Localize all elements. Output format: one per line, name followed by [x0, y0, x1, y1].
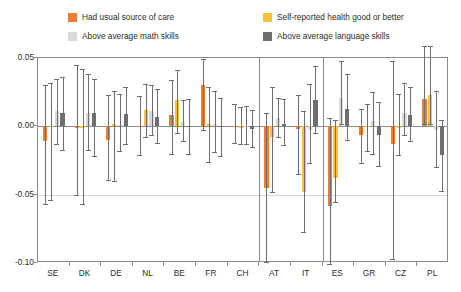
- legend-label: Self-reported health good or better: [277, 13, 404, 22]
- error-bar-cap: [390, 61, 395, 62]
- error-bar-cap: [359, 109, 364, 110]
- error-bar-cap: [376, 102, 381, 103]
- legend-item-usual_care: Had usual source of care: [68, 13, 174, 22]
- error-bar-cap: [175, 70, 180, 71]
- error-bar-cap: [117, 151, 122, 152]
- error-bar-BE-s2: [183, 100, 184, 141]
- x-axis-tick-label-ES: ES: [332, 268, 343, 278]
- x-axis-tick-label-FR: FR: [205, 268, 216, 278]
- grid-line: [38, 195, 447, 196]
- error-bar-CZ-s3: [410, 87, 411, 142]
- error-bar-cap: [92, 156, 97, 157]
- legend-label: Had usual source of care: [82, 13, 174, 22]
- x-axis-tick-label-DK: DK: [79, 268, 91, 278]
- error-bar-cap: [307, 163, 312, 164]
- legend-label: Above average math skills: [82, 32, 179, 41]
- x-axis-tick-mark: [416, 262, 417, 266]
- error-bar-cap: [327, 118, 332, 119]
- legend-swatch-icon: [263, 32, 272, 41]
- error-bar-cap: [186, 99, 191, 100]
- x-axis-tick-mark: [132, 262, 133, 266]
- error-bar-cap: [123, 144, 128, 145]
- error-bar-AT-s0: [266, 113, 267, 262]
- x-axis-tick-mark: [290, 262, 291, 266]
- error-bar-cap: [181, 100, 186, 101]
- error-bar-cap: [212, 152, 217, 153]
- error-bar-DK-s1: [83, 69, 84, 204]
- error-bar-CH-s0: [235, 104, 236, 142]
- error-bar-ES-s2: [341, 61, 342, 124]
- error-bar-GR-s1: [367, 104, 368, 150]
- error-bar-cap: [365, 104, 370, 105]
- error-bar-cap: [296, 95, 301, 96]
- error-bar-cap: [232, 143, 237, 144]
- error-bar-cap: [86, 150, 91, 151]
- error-bar-cap: [143, 84, 148, 85]
- error-bar-CZ-s2: [404, 83, 405, 135]
- error-bar-cap: [376, 166, 381, 167]
- legend-swatch-icon: [263, 13, 272, 22]
- x-axis-tick-label-IT: IT: [302, 268, 309, 278]
- error-bar-cap: [48, 200, 53, 201]
- error-bar-cap: [422, 124, 427, 125]
- error-bar-cap: [218, 98, 223, 99]
- error-bar-CZ-s1: [399, 94, 400, 156]
- y-axis-tick-label: -0.10: [15, 257, 34, 267]
- error-bar-cap: [276, 98, 281, 99]
- error-bar-GR-s3: [379, 102, 380, 166]
- error-bar-SE-s2: [57, 79, 58, 145]
- error-bar-cap: [422, 46, 427, 47]
- error-bar-cap: [181, 141, 186, 142]
- error-bar-cap: [365, 151, 370, 152]
- error-bar-cap: [281, 99, 286, 100]
- error-bar-cap: [264, 262, 269, 263]
- error-bar-cap: [48, 83, 53, 84]
- error-bar-cap: [428, 124, 433, 125]
- plot-area: [37, 57, 448, 262]
- error-bar-cap: [238, 107, 243, 108]
- legend-item-self_health: Self-reported health good or better: [263, 13, 404, 22]
- x-axis-tick-mark: [258, 262, 259, 266]
- chart-legend: Had usual source of careSelf-reported he…: [0, 0, 461, 48]
- y-axis-tick-mark: [33, 125, 37, 126]
- x-axis-tick-label-GR: GR: [363, 268, 375, 278]
- x-axis-tick-mark: [227, 262, 228, 266]
- error-bar-cap: [106, 95, 111, 96]
- error-bar-NL-s3: [157, 89, 158, 142]
- error-bar-SE-s1: [51, 83, 52, 201]
- error-bar-SE-s3: [63, 77, 64, 149]
- error-bar-cap: [54, 79, 59, 80]
- x-axis-tick-mark: [322, 262, 323, 266]
- error-bar-cap: [74, 195, 79, 196]
- y-axis: 0.050.00-0.05-0.10: [0, 57, 34, 262]
- error-bar-IT-s1: [304, 111, 305, 231]
- error-bar-FR-s1: [209, 87, 210, 162]
- error-bar-cap: [439, 191, 444, 192]
- error-bar-cap: [339, 124, 344, 125]
- error-bar-cap: [238, 144, 243, 145]
- error-bar-ES-s0: [330, 118, 331, 264]
- error-bar-cap: [270, 192, 275, 193]
- error-bar-CH-s1: [241, 107, 242, 144]
- error-bar-cap: [137, 155, 142, 156]
- error-bar-NL-s1: [146, 84, 147, 137]
- error-bar-cap: [106, 180, 111, 181]
- x-axis-tick-mark: [100, 262, 101, 266]
- error-bar-cap: [149, 85, 154, 86]
- error-bar-cap: [333, 202, 338, 203]
- error-bar-ES-s1: [335, 120, 336, 202]
- error-bar-cap: [408, 87, 413, 88]
- x-axis-tick-label-PL: PL: [427, 268, 437, 278]
- error-bar-AT-s2: [278, 98, 279, 138]
- error-bar-BE-s1: [177, 70, 178, 133]
- error-bar-DK-s2: [88, 74, 89, 149]
- error-bar-cap: [250, 110, 255, 111]
- error-bar-PL-s0: [424, 46, 425, 124]
- error-bar-cap: [396, 94, 401, 95]
- error-bar-cap: [155, 143, 160, 144]
- error-bar-cap: [264, 113, 269, 114]
- error-bar-cap: [218, 156, 223, 157]
- error-bar-PL-s3: [442, 120, 443, 191]
- error-bar-cap: [390, 259, 395, 260]
- error-bar-cap: [43, 204, 48, 205]
